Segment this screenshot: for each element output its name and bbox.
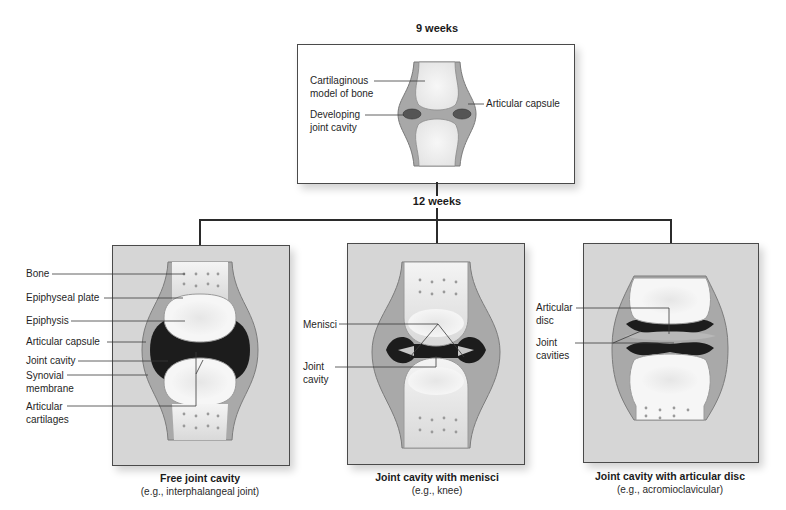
label-line: Synovial — [26, 369, 74, 382]
panel-joint-illustrations — [0, 0, 786, 510]
label-line: cavity — [303, 373, 329, 386]
label-line: cavities — [536, 349, 569, 362]
caption-subtitle-menisci: (e.g., knee) — [412, 485, 463, 496]
caption-title-menisci: Joint cavity with menisci — [375, 471, 499, 483]
label-epiphyseal-plate: Epiphyseal plate — [26, 291, 99, 304]
free-joint-illustration — [52, 262, 258, 440]
label-joint-cavities: Joint cavities — [536, 336, 569, 362]
label-synovial-membrane: Synovial membrane — [26, 369, 74, 395]
label-articular-disc: Articular disc — [536, 301, 573, 327]
caption-title-free-joint: Free joint cavity — [160, 472, 240, 484]
label-line: cartilages — [26, 413, 69, 426]
label-bone: Bone — [26, 267, 49, 280]
caption-title-articular-disc: Joint cavity with articular disc — [595, 470, 745, 482]
label-menisci: Menisci — [303, 318, 337, 331]
articular-disc-joint-illustration — [575, 276, 728, 420]
label-articular-cartilages: Articular cartilages — [26, 400, 69, 426]
label-joint-cavity-menisci: Joint cavity — [303, 360, 329, 386]
label-articular-capsule: Articular capsule — [26, 335, 100, 348]
label-joint-cavity: Joint cavity — [26, 354, 75, 367]
caption-subtitle-free-joint: (e.g., interphalangeal joint) — [141, 486, 259, 497]
label-line: Articular — [26, 400, 69, 413]
menisci-joint-illustration — [335, 262, 500, 448]
caption-subtitle-articular-disc: (e.g., acromioclavicular) — [617, 484, 723, 495]
label-line: Joint — [303, 360, 329, 373]
label-line: Joint — [536, 336, 569, 349]
label-line: disc — [536, 314, 573, 327]
label-line: membrane — [26, 382, 74, 395]
label-line: Articular — [536, 301, 573, 314]
label-epiphysis: Epiphysis — [26, 314, 69, 327]
